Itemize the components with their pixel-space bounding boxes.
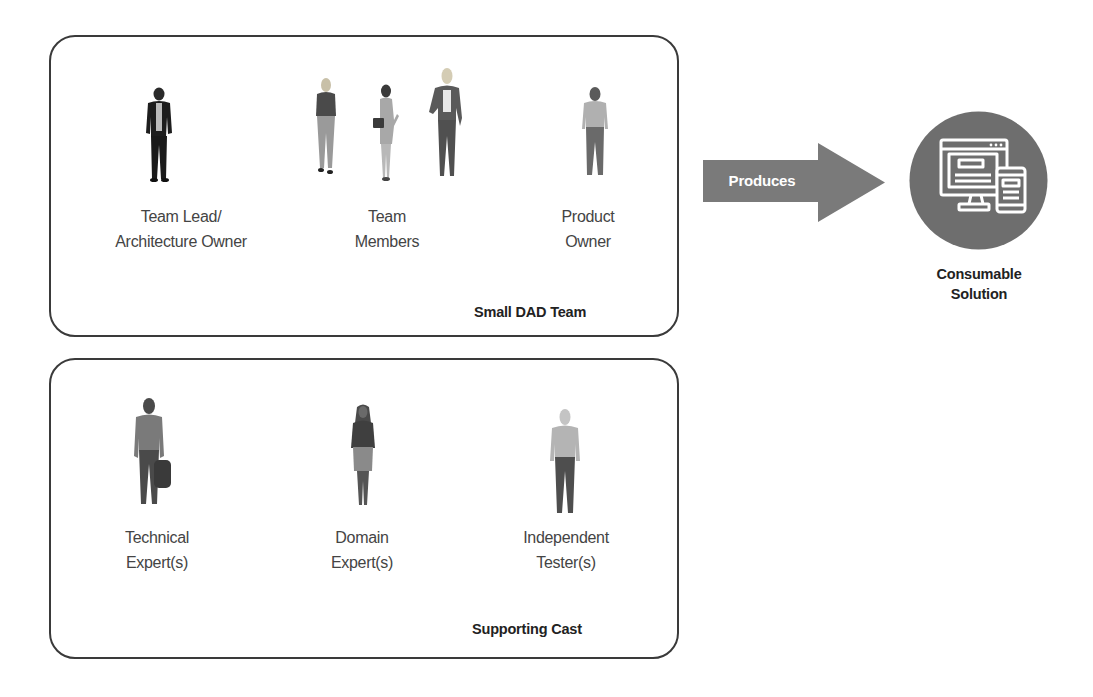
team-lead-label-line-1: Team Lead/ [115, 204, 247, 229]
product-owner-label: Product Owner [561, 204, 614, 254]
team-member-3-figure-icon [426, 68, 468, 180]
technical-expert-label: Technical Expert(s) [125, 525, 189, 575]
team-members-label-line-2: Members [355, 229, 420, 254]
team-member-2-figure-icon [370, 84, 402, 182]
consumable-solution-label-line-2: Solution [936, 284, 1021, 304]
team-members-label-line-1: Team [355, 204, 420, 229]
independent-tester-label: Independent Tester(s) [523, 525, 609, 575]
consumable-solution-label-line-1: Consumable [936, 264, 1021, 284]
produces-label: Produces [712, 172, 812, 190]
technical-expert-label-line-1: Technical [125, 525, 189, 550]
technical-expert-figure-icon [132, 398, 176, 508]
product-owner-label-line-2: Owner [561, 229, 614, 254]
team-lead-label-line-2: Architecture Owner [115, 229, 247, 254]
domain-expert-figure-icon [347, 403, 379, 509]
team-member-1-figure-icon [313, 78, 339, 176]
team-members-label: Team Members [355, 204, 420, 254]
small-dad-team-title: Small DAD Team [474, 304, 586, 320]
consumable-solution-devices-icon [909, 111, 1048, 250]
technical-expert-label-line-2: Expert(s) [125, 550, 189, 575]
independent-tester-label-line-1: Independent [523, 525, 609, 550]
domain-expert-label-line-2: Expert(s) [331, 550, 393, 575]
consumable-solution-label: Consumable Solution [936, 264, 1021, 304]
domain-expert-label-line-1: Domain [331, 525, 393, 550]
supporting-cast-title: Supporting Cast [472, 621, 582, 637]
product-owner-label-line-1: Product [561, 204, 614, 229]
small-dad-team-group [49, 35, 679, 337]
domain-expert-label: Domain Expert(s) [331, 525, 393, 575]
product-owner-figure-icon [580, 87, 610, 180]
team-lead-figure-icon [142, 87, 176, 184]
independent-tester-figure-icon [548, 409, 582, 517]
team-lead-label: Team Lead/ Architecture Owner [115, 204, 247, 254]
independent-tester-label-line-2: Tester(s) [523, 550, 609, 575]
